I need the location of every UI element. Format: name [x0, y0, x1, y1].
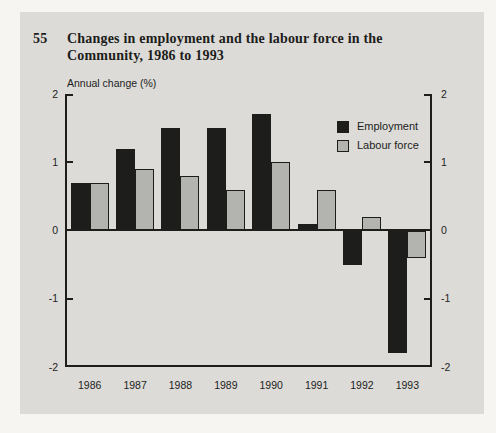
- plot-area: Employment Labour force: [65, 94, 432, 367]
- y-tick-label-left-1: 1: [28, 156, 58, 169]
- x-tick-label-1993: 1993: [387, 379, 427, 391]
- left-axis-tick--1: [67, 298, 73, 300]
- right-axis-tick-1: [424, 161, 430, 163]
- labour-force-bar-1993: [407, 231, 426, 258]
- labour-force-bar-1989: [226, 190, 245, 231]
- legend-label-labour-force: Labour force: [357, 139, 419, 152]
- employment-swatch-icon: [337, 121, 349, 133]
- figure-page: 55 Changes in employment and the labour …: [0, 0, 496, 433]
- figure-title-line1: Changes in employment and the labour for…: [67, 30, 383, 47]
- figure-number: 55: [33, 30, 67, 64]
- labour-force-bar-1990: [271, 162, 290, 230]
- x-tick-label-1988: 1988: [160, 379, 200, 391]
- employment-bar-1992: [343, 231, 362, 265]
- y-tick-label-right-1: 1: [441, 156, 469, 169]
- y-tick-label-left--2: -2: [28, 361, 58, 374]
- left-axis-tick-1: [67, 161, 73, 163]
- y-tick-label-right-2: 2: [441, 88, 469, 101]
- right-axis-top-cap: [424, 94, 430, 96]
- labour-force-bar-1986: [90, 183, 109, 231]
- x-tick-label-1990: 1990: [251, 379, 291, 391]
- left-axis-top-cap: [67, 94, 73, 96]
- labour-force-swatch-icon: [337, 140, 349, 152]
- y-tick-label-right-0: 0: [441, 224, 469, 237]
- figure-title: Changes in employment and the labour for…: [67, 30, 383, 64]
- figure-title-line2: Community, 1986 to 1993: [67, 47, 383, 64]
- right-axis-tick--1: [424, 298, 430, 300]
- employment-bar-1987: [116, 149, 135, 231]
- x-tick-label-1986: 1986: [70, 379, 110, 391]
- y-tick-label-left--1: -1: [28, 292, 58, 305]
- x-tick-label-1989: 1989: [206, 379, 246, 391]
- employment-bar-1988: [161, 128, 180, 230]
- employment-bar-1986: [71, 183, 90, 231]
- employment-bar-1993: [388, 231, 407, 354]
- labour-force-bar-1988: [180, 176, 199, 231]
- figure-header: 55 Changes in employment and the labour …: [33, 30, 383, 64]
- y-axis-title: Annual change (%): [67, 77, 156, 89]
- legend-label-employment: Employment: [357, 120, 418, 133]
- x-tick-label-1992: 1992: [342, 379, 382, 391]
- employment-bar-1989: [207, 128, 226, 230]
- y-tick-label-left-0: 0: [28, 224, 58, 237]
- labour-force-bar-1991: [317, 190, 336, 231]
- x-tick-label-1987: 1987: [115, 379, 155, 391]
- legend-item-employment: Employment: [337, 120, 419, 133]
- legend-item-labour-force: Labour force: [337, 139, 419, 152]
- y-tick-label-left-2: 2: [28, 88, 58, 101]
- y-tick-label-right--2: -2: [441, 361, 469, 374]
- employment-bar-1990: [252, 114, 271, 230]
- legend: Employment Labour force: [337, 120, 419, 158]
- x-tick-label-1991: 1991: [297, 379, 337, 391]
- zero-baseline: [65, 229, 432, 231]
- labour-force-bar-1987: [135, 169, 154, 230]
- y-tick-label-right--1: -1: [441, 292, 469, 305]
